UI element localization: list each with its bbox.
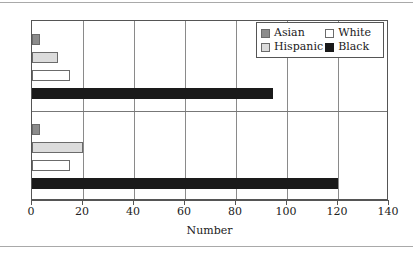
page-rule-bottom xyxy=(0,246,413,247)
gridline-60 xyxy=(185,21,186,199)
legend-entry-white: White xyxy=(325,26,379,40)
x-axis-line xyxy=(31,200,388,201)
x-tick-label-100: 100 xyxy=(266,206,306,218)
legend-label-white: White xyxy=(338,26,371,40)
legend: Asian White Hispanic Black xyxy=(256,22,384,58)
legend-label-black: Black xyxy=(338,40,369,54)
x-tick-label-140: 140 xyxy=(368,206,408,218)
x-tick-label-20: 20 xyxy=(62,206,102,218)
legend-entry-hispanic: Hispanic xyxy=(261,40,323,54)
legend-label-asian: Asian xyxy=(274,26,305,40)
legend-swatch-hispanic xyxy=(261,43,270,52)
x-axis-title: Number xyxy=(31,224,388,237)
bar-victims-asian xyxy=(32,124,40,135)
bar-suspects-asian xyxy=(32,34,40,45)
gridline-40 xyxy=(134,21,135,199)
x-tick-label-0: 0 xyxy=(11,206,51,218)
bar-victims-white xyxy=(32,160,70,171)
bar-suspects-hispanic xyxy=(32,52,58,63)
gridline-80 xyxy=(236,21,237,199)
bar-suspects-black xyxy=(32,88,273,99)
page-rule-top xyxy=(0,2,413,3)
legend-swatch-asian xyxy=(261,29,270,38)
group-separator xyxy=(32,111,387,112)
legend-swatch-white xyxy=(325,29,334,38)
bar-chart-figure: Suspects Victims Number Asian White Hisp… xyxy=(0,0,413,256)
legend-swatch-black xyxy=(325,43,334,52)
legend-entry-black: Black xyxy=(325,40,379,54)
x-tick-label-60: 60 xyxy=(164,206,204,218)
legend-label-hispanic: Hispanic xyxy=(274,40,323,54)
x-tick-label-40: 40 xyxy=(113,206,153,218)
bar-suspects-white xyxy=(32,70,70,81)
x-tick-label-80: 80 xyxy=(215,206,255,218)
gridline-20 xyxy=(83,21,84,199)
bar-victims-hispanic xyxy=(32,142,83,153)
bar-victims-black xyxy=(32,178,338,189)
x-tick-label-120: 120 xyxy=(317,206,357,218)
legend-entry-asian: Asian xyxy=(261,26,323,40)
